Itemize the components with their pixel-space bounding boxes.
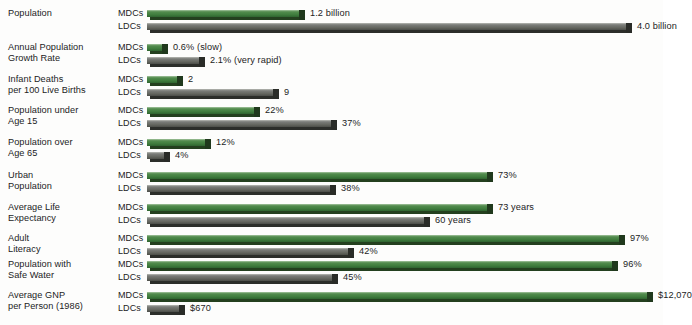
- bar-ldc: [147, 150, 164, 161]
- bar-mdc: [147, 8, 299, 19]
- bar-end-cap: [612, 261, 618, 271]
- bar-face: [147, 305, 179, 312]
- category-label-line1: Infant Deaths: [8, 74, 63, 84]
- bar-ldc: [147, 87, 273, 98]
- category-label: UrbanPopulation: [8, 170, 120, 191]
- bar-face: [147, 261, 612, 268]
- bar-mdc: [147, 105, 254, 116]
- category-label-line1: Population over: [8, 137, 73, 147]
- bar-base-shadow: [150, 255, 351, 258]
- series-label-ldc: LDCs: [118, 183, 141, 193]
- series-label-mdc: MDCs: [118, 8, 143, 18]
- series-label-mdc: MDCs: [118, 259, 143, 269]
- bar-end-cap: [179, 305, 185, 315]
- bar-end-cap: [647, 292, 653, 302]
- bar-base-shadow: [150, 127, 334, 130]
- series-label-mdc: MDCs: [118, 105, 143, 115]
- bar-face: [147, 89, 273, 96]
- bar-end-cap: [273, 89, 279, 99]
- bar-value-ldc: 38%: [341, 183, 360, 194]
- bar-mdc: [147, 233, 619, 244]
- bar-face: [147, 185, 330, 192]
- category-label-line1: Population: [8, 8, 52, 18]
- series-label-mdc: MDCs: [118, 74, 143, 84]
- bar-face: [147, 204, 487, 211]
- category-label-line2: Growth Rate: [8, 53, 120, 64]
- bar-value-mdc: 73%: [498, 170, 517, 181]
- bar-value-mdc: $12,070: [658, 290, 692, 301]
- bar-end-cap: [487, 204, 493, 214]
- bar-end-cap: [424, 217, 430, 227]
- category-label-line2: per 100 Live Births: [8, 85, 120, 96]
- bar-value-ldc: 45%: [343, 272, 362, 283]
- bar-face: [147, 107, 254, 114]
- bar-face: [147, 292, 647, 299]
- bar-end-cap: [299, 10, 305, 20]
- category-label: Population withSafe Water: [8, 259, 120, 280]
- bar-mdc: [147, 74, 177, 85]
- bar-base-shadow: [150, 179, 490, 182]
- bar-ldc: [147, 118, 331, 129]
- category-label-line1: Average Life: [8, 202, 60, 212]
- bar-end-cap: [162, 44, 168, 54]
- bar-end-cap: [199, 57, 205, 67]
- bar-ldc: [147, 55, 199, 66]
- series-label-ldc: LDCs: [118, 21, 141, 31]
- bar-value-mdc: 97%: [630, 233, 649, 244]
- bar-face: [147, 248, 348, 255]
- bar-face: [147, 235, 619, 242]
- bar-value-mdc: 22%: [265, 105, 284, 116]
- series-label-ldc: LDCs: [118, 246, 141, 256]
- bar-face: [147, 10, 299, 17]
- bar-mdc: [147, 137, 205, 148]
- series-label-mdc: MDCs: [118, 170, 143, 180]
- bar-value-mdc: 1.2 billion: [310, 8, 350, 19]
- bar-value-mdc: 0.6% (slow): [173, 42, 222, 53]
- category-label: Average GNPper Person (1986): [8, 290, 120, 311]
- category-label-line1: Average GNP: [8, 290, 65, 300]
- bar-end-cap: [164, 152, 170, 162]
- bar-face: [147, 44, 162, 51]
- category-label-line2: Literacy: [8, 244, 120, 255]
- bar-mdc: [147, 259, 612, 270]
- bar-face: [147, 76, 177, 83]
- category-label: Population underAge 15: [8, 105, 120, 126]
- series-label-mdc: MDCs: [118, 202, 143, 212]
- bar-end-cap: [332, 274, 338, 284]
- bar-face: [147, 172, 487, 179]
- category-label: Population overAge 65: [8, 137, 120, 158]
- category-label-line1: Population under: [8, 105, 78, 115]
- bar-face: [147, 152, 164, 159]
- category-label-line1: Adult: [8, 233, 29, 243]
- series-label-ldc: LDCs: [118, 118, 141, 128]
- bar-mdc: [147, 170, 487, 181]
- series-label-ldc: LDCs: [118, 303, 141, 313]
- bar-mdc: [147, 42, 162, 53]
- bar-base-shadow: [150, 114, 257, 117]
- bar-base-shadow: [150, 146, 208, 149]
- bar-base-shadow: [150, 211, 490, 214]
- series-label-mdc: MDCs: [118, 42, 143, 52]
- series-label-ldc: LDCs: [118, 55, 141, 65]
- bar-face: [147, 57, 199, 64]
- category-label-line2: Population: [8, 181, 120, 192]
- bar-end-cap: [487, 172, 493, 182]
- category-label-line1: Annual Population: [8, 42, 83, 52]
- bar-value-ldc: 60 years: [435, 215, 471, 226]
- bar-base-shadow: [150, 96, 276, 99]
- bar-face: [147, 274, 332, 281]
- category-label-line2: Safe Water: [8, 270, 120, 281]
- series-label-mdc: MDCs: [118, 137, 143, 147]
- bar-base-shadow: [150, 281, 335, 284]
- bar-face: [147, 23, 626, 30]
- bar-value-ldc: 2.1% (very rapid): [210, 55, 282, 66]
- bar-value-mdc: 96%: [623, 259, 642, 270]
- bar-base-shadow: [150, 312, 182, 315]
- category-label: Infant Deathsper 100 Live Births: [8, 74, 120, 95]
- bar-face: [147, 120, 331, 127]
- bar-base-shadow: [150, 224, 427, 227]
- category-label-line2: Expectancy: [8, 213, 120, 224]
- category-label-line2: per Person (1986): [8, 301, 120, 312]
- category-label-line1: Urban: [8, 170, 33, 180]
